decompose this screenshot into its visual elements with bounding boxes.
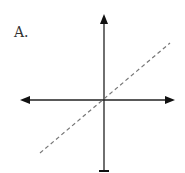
- axes-diagram: [0, 0, 185, 173]
- y-axis-up-arrow-icon: [100, 14, 108, 24]
- x-axis-right-arrow-icon: [165, 96, 175, 104]
- x-axis-left-arrow-icon: [20, 96, 30, 104]
- dashed-line: [40, 43, 170, 153]
